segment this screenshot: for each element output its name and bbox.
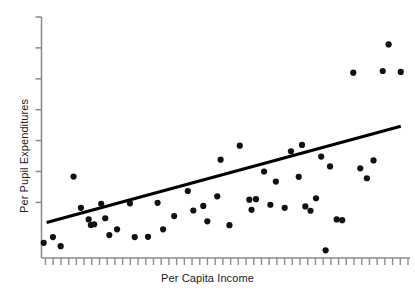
data-point [86, 216, 92, 222]
data-point [214, 193, 220, 199]
data-points-group [41, 41, 404, 253]
data-point [217, 157, 223, 163]
data-point [237, 143, 243, 149]
data-point [145, 234, 151, 240]
data-point [190, 207, 196, 213]
data-point [200, 203, 206, 209]
x-axis-label: Per Capita Income [0, 272, 415, 284]
trendline [47, 126, 401, 222]
data-point [58, 243, 64, 249]
plot-canvas [0, 0, 415, 293]
data-point [41, 240, 47, 246]
data-point [98, 201, 104, 207]
data-point [296, 174, 302, 180]
data-point [261, 168, 267, 174]
data-point [357, 165, 363, 171]
data-point [246, 197, 252, 203]
data-point [102, 215, 108, 221]
data-point [313, 195, 319, 201]
data-point [364, 175, 370, 181]
scatter-chart: Per Pupil Expenditures Per Capita Income [0, 0, 415, 293]
data-point [288, 148, 294, 154]
data-point [154, 200, 160, 206]
data-point [127, 200, 133, 206]
data-point [370, 157, 376, 163]
data-point [318, 153, 324, 159]
data-point [380, 68, 386, 74]
data-point [185, 188, 191, 194]
data-point [171, 213, 177, 219]
data-point [282, 205, 288, 211]
data-point [327, 163, 333, 169]
data-point [78, 205, 84, 211]
data-point [253, 196, 259, 202]
data-point [114, 226, 120, 232]
data-point [50, 234, 56, 240]
data-point [160, 226, 166, 232]
data-point [106, 232, 112, 238]
data-point [226, 222, 232, 228]
data-point [70, 173, 76, 179]
regression-line [47, 126, 401, 222]
data-point [273, 179, 279, 185]
data-point [132, 234, 138, 240]
data-point [398, 69, 404, 75]
data-point [334, 216, 340, 222]
data-point [204, 218, 210, 224]
data-point [91, 221, 97, 227]
data-point [323, 247, 329, 253]
data-point [339, 217, 345, 223]
y-axis-label: Per Pupil Expenditures [18, 99, 30, 213]
data-point [248, 207, 254, 213]
data-point [307, 208, 313, 214]
data-point [350, 70, 356, 76]
data-point [302, 203, 308, 209]
data-point [299, 142, 305, 148]
data-point [267, 202, 273, 208]
data-point [386, 41, 392, 47]
